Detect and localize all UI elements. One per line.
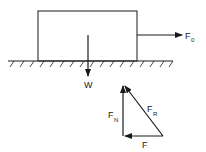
- resultant-force-subscript: R: [153, 111, 158, 117]
- friction-force-label: F: [142, 140, 148, 150]
- normal-force-subscript: N: [114, 117, 118, 123]
- force-diagram: F 0 W F N F R F: [0, 0, 206, 152]
- ground-surface: [8, 61, 173, 67]
- applied-force-subscript: 0: [191, 37, 195, 43]
- diagram-svg: F 0 W F N F R F: [0, 0, 206, 152]
- weight-label: W: [84, 80, 93, 90]
